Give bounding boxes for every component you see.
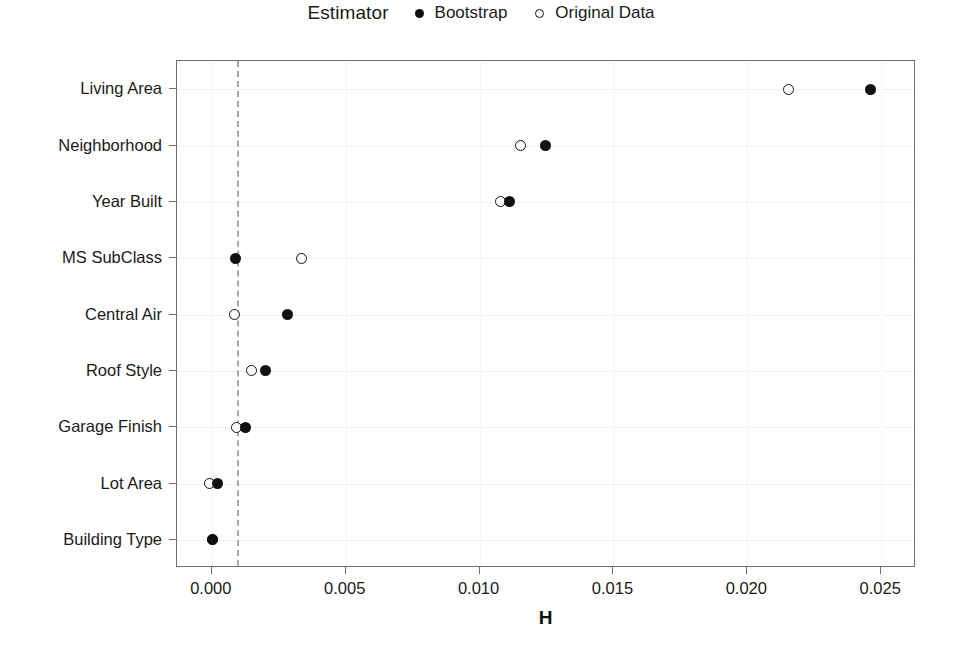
y-axis-tick-mark	[169, 201, 176, 202]
data-point-bootstrap[interactable]	[504, 196, 515, 207]
x-axis-tick-mark	[612, 567, 613, 574]
y-axis-tick-mark	[169, 314, 176, 315]
y-axis-tick-mark	[169, 426, 176, 427]
gridline-horizontal	[177, 371, 914, 372]
x-axis-tick-label: 0.015	[592, 579, 633, 598]
gridline-vertical	[212, 61, 213, 566]
y-axis-tick-mark	[169, 539, 176, 540]
x-axis-tick-mark	[345, 567, 346, 574]
y-axis-tick-label: Building Type	[63, 529, 162, 548]
data-point-bootstrap[interactable]	[540, 140, 551, 151]
y-axis-tick-mark	[169, 88, 176, 89]
x-axis-tick-mark	[880, 567, 881, 574]
y-axis-tick-label: Lot Area	[101, 473, 162, 492]
y-axis-tick-mark	[169, 370, 176, 371]
y-axis-tick-label: Central Air	[85, 304, 162, 323]
y-axis-tick-label: MS SubClass	[62, 248, 162, 267]
y-axis-tick-mark	[169, 257, 176, 258]
x-axis-tick-label: 0.000	[190, 579, 231, 598]
x-axis-tick-mark	[479, 567, 480, 574]
gridline-vertical	[480, 61, 481, 566]
plot-wrapper: Living AreaNeighborhoodYear BuiltMS SubC…	[0, 0, 962, 652]
data-point-bootstrap[interactable]	[865, 84, 876, 95]
x-axis-tick-label: 0.005	[324, 579, 365, 598]
gridline-horizontal	[177, 484, 914, 485]
x-axis-tick-label: 0.020	[726, 579, 767, 598]
data-point-bootstrap[interactable]	[260, 365, 271, 376]
gridline-vertical	[881, 61, 882, 566]
data-point-original[interactable]	[515, 140, 526, 151]
gridline-vertical	[747, 61, 748, 566]
data-point-original[interactable]	[783, 84, 794, 95]
gridline-vertical	[346, 61, 347, 566]
gridline-horizontal	[177, 540, 914, 541]
data-point-bootstrap[interactable]	[240, 422, 251, 433]
gridline-vertical	[613, 61, 614, 566]
x-axis-title: H	[176, 607, 915, 629]
data-point-original[interactable]	[296, 253, 307, 264]
gridline-horizontal	[177, 89, 914, 90]
x-axis-tick-mark	[211, 567, 212, 574]
gridline-horizontal	[177, 427, 914, 428]
gridline-horizontal	[177, 258, 914, 259]
y-axis-tick-mark	[169, 483, 176, 484]
figure-root: Estimator Bootstrap Original Data Living…	[0, 0, 962, 652]
y-axis-tick-label: Roof Style	[86, 360, 162, 379]
x-axis-tick-label: 0.010	[458, 579, 499, 598]
y-axis-tick-label: Year Built	[92, 191, 162, 210]
y-axis-tick-label: Living Area	[80, 79, 162, 98]
y-axis-tick-mark	[169, 145, 176, 146]
gridline-horizontal	[177, 202, 914, 203]
plot-frame	[176, 60, 915, 567]
x-axis-tick-mark	[746, 567, 747, 574]
data-point-bootstrap[interactable]	[212, 478, 223, 489]
data-point-original[interactable]	[246, 365, 257, 376]
data-point-original[interactable]	[229, 309, 240, 320]
y-axis-tick-label: Garage Finish	[58, 417, 162, 436]
data-point-bootstrap[interactable]	[230, 253, 241, 264]
y-axis-tick-label: Neighborhood	[58, 135, 162, 154]
x-axis-tick-label: 0.025	[860, 579, 901, 598]
data-point-bootstrap[interactable]	[282, 309, 293, 320]
data-point-bootstrap[interactable]	[207, 534, 218, 545]
